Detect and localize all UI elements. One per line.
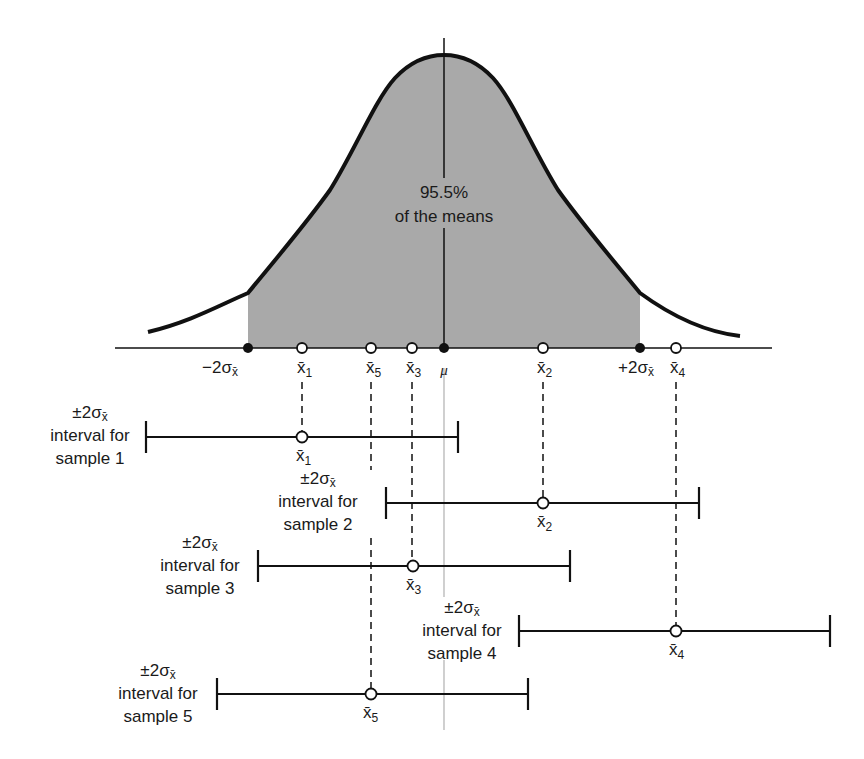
plus-2sigma-label: +2σx̄	[618, 358, 654, 379]
interval-sample-5: x̄5 ±2σx̄ interval for sample 5	[118, 661, 528, 726]
xbar1-interval-label: x̄1	[296, 446, 312, 468]
interval3-label-line2: interval for	[160, 556, 240, 575]
interval1-label-line1: ±2σx̄	[72, 403, 107, 424]
interval1-label-line3: sample 1	[56, 449, 125, 468]
xbar3-label: x̄3	[406, 358, 422, 380]
xbar4-axis-marker	[671, 343, 681, 353]
minus-2sigma-dot	[243, 343, 253, 353]
mu-dot	[439, 343, 449, 353]
interval5-label-line2: interval for	[118, 684, 198, 703]
interval1-label-line2: interval for	[50, 426, 130, 445]
xbar2-axis-marker	[538, 343, 548, 353]
mu-label: μ	[439, 362, 448, 378]
interval3-label-line3: sample 3	[166, 579, 235, 598]
sampling-distribution-diagram: 95.5% of the means −2σx̄ x̄1 x̄5 x̄3 μ x…	[0, 0, 864, 759]
xbar1-interval-marker	[297, 432, 308, 443]
xbar5-label: x̄5	[366, 358, 382, 380]
interval-sample-4: x̄4 ±2σx̄ interval for sample 4	[405, 597, 830, 667]
interval5-label-line1: ±2σx̄	[140, 661, 175, 682]
interval2-label-line3: sample 2	[284, 515, 353, 534]
interval4-label-line3: sample 4	[428, 644, 497, 663]
xbar2-interval-marker	[538, 498, 549, 509]
minus-2sigma-label: −2σx̄	[202, 358, 238, 379]
xbar4-label: x̄4	[670, 358, 686, 380]
xbar1-label: x̄1	[297, 358, 313, 380]
xbar2-label: x̄2	[537, 358, 553, 380]
xbar5-interval-label: x̄5	[363, 703, 379, 725]
interval-sample-1: x̄1 ±2σx̄ interval for sample 1	[50, 403, 458, 468]
xbar2-interval-label: x̄2	[537, 512, 553, 534]
xbar3-interval-label: x̄3	[406, 575, 422, 597]
xbar4-interval-label: x̄4	[669, 640, 685, 662]
of-means-label: of the means	[395, 207, 493, 226]
xbar3-interval-marker	[408, 561, 419, 572]
plus-2sigma-dot	[635, 343, 645, 353]
xbar5-interval-marker	[366, 689, 377, 700]
xbar5-axis-marker	[366, 343, 376, 353]
interval3-label-line1: ±2σx̄	[182, 533, 217, 554]
xbar3-axis-marker	[407, 343, 417, 353]
pct-label: 95.5%	[420, 183, 468, 202]
xbar1-axis-marker	[297, 343, 307, 353]
xbar4-interval-marker	[671, 626, 682, 637]
interval-sample-3: x̄3 ±2σx̄ interval for sample 3	[160, 533, 570, 598]
interval-sample-2: x̄2 ±2σx̄ interval for sample 2	[255, 469, 699, 536]
interval4-label-line2: interval for	[422, 621, 502, 640]
interval5-label-line3: sample 5	[124, 707, 193, 726]
interval2-label-line2: interval for	[278, 492, 358, 511]
